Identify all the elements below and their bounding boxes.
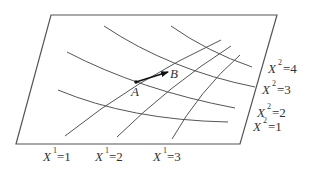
svg-text:X: X	[42, 149, 52, 164]
svg-text:2: 2	[267, 102, 271, 111]
x2-label-3: X 2 =3	[261, 79, 291, 97]
svg-text:X: X	[94, 149, 104, 164]
svg-text:2: 2	[272, 79, 276, 88]
point-a-label: A	[130, 84, 139, 99]
svg-text:2: 2	[263, 116, 267, 125]
x2-label-1: X 2 =1	[252, 116, 282, 134]
svg-text:=3: =3	[277, 82, 291, 97]
x2-curve-4	[171, 26, 252, 67]
svg-text:=3: =3	[167, 149, 181, 164]
svg-text:X: X	[267, 61, 277, 76]
svg-text:X: X	[261, 82, 271, 97]
x2-label-4: X 2 =4	[267, 58, 297, 76]
svg-text:=1: =1	[57, 149, 71, 164]
svg-text:X: X	[152, 149, 162, 164]
x1-label-1: X 1 =1	[42, 146, 71, 164]
coordinate-grid-diagram: A B X 2 =4 X 2 =3 X 2 =2 X 2 =1 X 1 =1 X…	[0, 0, 314, 173]
svg-text:X: X	[252, 119, 262, 134]
svg-text:2: 2	[278, 58, 282, 67]
svg-text:=4: =4	[283, 61, 297, 76]
svg-text:=1: =1	[268, 119, 282, 134]
point-b-label: B	[170, 66, 178, 81]
x1-line-3	[172, 55, 240, 139]
x1-label-2: X 1 =2	[94, 146, 123, 164]
x2-label-2: X 2 =2	[256, 102, 286, 120]
x1-line-1	[65, 40, 221, 136]
svg-text:=2: =2	[109, 149, 123, 164]
svg-text:=2: =2	[272, 105, 286, 120]
x1-label-3: X 1 =3	[152, 146, 181, 164]
vector-ab-arrow	[136, 72, 168, 82]
